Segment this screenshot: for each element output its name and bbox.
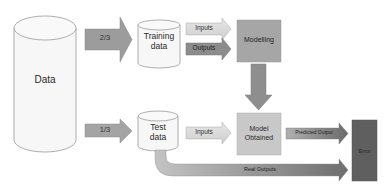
real-outputs-label: Real Outputs [230,166,290,172]
modelling-label: Modelling [237,36,281,44]
model-obtained-label-line2: Obtained [237,133,281,142]
test-data-label-line1: Test [138,122,178,132]
predicted-output-label: Predicted Output [288,130,340,136]
training-data-label-line2: data [138,41,180,51]
model-obtained-label-line1: Model [237,124,281,133]
test-data-label-line2: data [138,132,178,142]
model-down-arrow [245,64,272,110]
train-outputs-label: Outputs [186,44,222,51]
data-label: Data [14,74,76,86]
split-test-label: 1/3 [92,126,118,135]
error-label: Error [352,148,377,154]
split-train-label: 2/3 [92,34,118,43]
training-data-label-line1: Training [138,31,180,41]
model-obtained-label: Model Obtained [237,124,281,142]
training-data-label: Training data [138,31,180,51]
test-inputs-label: Inputs [186,128,222,135]
test-data-label: Test data [138,122,178,142]
train-inputs-label: Inputs [186,24,222,31]
